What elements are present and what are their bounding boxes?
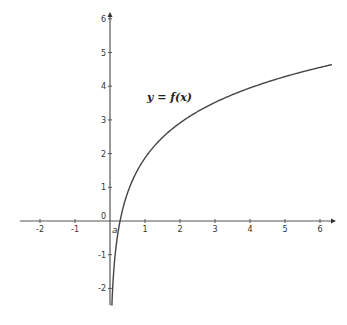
- axes: -2-1123456-2-1123456: [20, 12, 336, 305]
- y-tick-label: 1: [101, 183, 106, 192]
- y-tick-label: 6: [101, 15, 106, 24]
- x-tick-label: -2: [36, 225, 44, 234]
- function-curve: [112, 65, 332, 306]
- y-tick-label: -1: [98, 251, 106, 260]
- x-tick-label: -1: [71, 225, 79, 234]
- chart: -2-1123456-2-1123456 y = f(x) 0 a: [0, 0, 347, 325]
- y-tick-label: 5: [101, 49, 106, 58]
- function-label: y = f(x): [146, 91, 192, 104]
- y-tick-label: 4: [101, 82, 106, 91]
- intercept-label: a: [112, 225, 118, 235]
- x-tick-label: 3: [212, 225, 217, 234]
- x-tick-label: 4: [247, 225, 252, 234]
- x-tick-label: 2: [177, 225, 182, 234]
- y-tick-label: 3: [101, 116, 106, 125]
- y-tick-label: 2: [101, 150, 106, 159]
- y-tick-label: -2: [98, 284, 106, 293]
- x-tick-label: 6: [317, 225, 322, 234]
- x-tick-label: 5: [282, 225, 287, 234]
- x-tick-label: 1: [142, 225, 147, 234]
- origin-label: 0: [101, 212, 106, 221]
